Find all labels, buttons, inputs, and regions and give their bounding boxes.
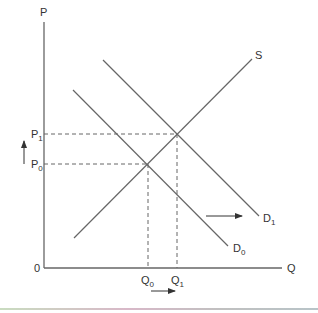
demand-curve-d0	[73, 90, 228, 246]
x-axis-label: Q	[287, 262, 296, 274]
y-axis-label: P	[40, 6, 47, 18]
supply-curve	[74, 59, 252, 238]
bottom-rule	[0, 308, 318, 310]
d1-label: D1	[263, 212, 276, 227]
q0-label: Q0	[141, 274, 155, 289]
p1-label: P1	[31, 128, 43, 143]
origin-label: 0	[34, 262, 40, 274]
d0-label: D0	[233, 242, 246, 257]
supply-demand-diagram: P Q 0 S D0 D1 P1 P0 Q0 Q1	[0, 0, 318, 313]
q1-label: Q1	[171, 274, 185, 289]
demand-curve-d1	[103, 60, 259, 216]
p0-label: P0	[31, 158, 43, 173]
supply-label: S	[255, 49, 262, 61]
